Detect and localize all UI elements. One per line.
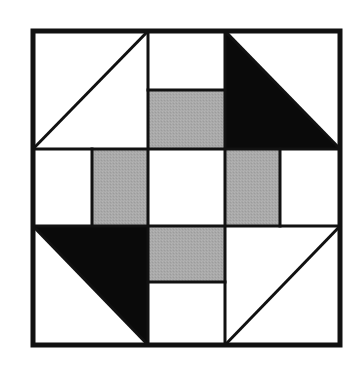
cell-middle-right — [225, 149, 340, 226]
quilt-block-diagram — [0, 0, 357, 366]
cell-center — [148, 149, 225, 226]
patch-light — [148, 149, 225, 226]
patch-gray — [92, 149, 148, 226]
patch-gray — [225, 149, 280, 226]
patch-light — [148, 31, 225, 90]
patch-light — [33, 149, 92, 226]
patch-light — [280, 149, 340, 226]
patch-gray — [148, 90, 225, 149]
cell-bottom-center — [148, 226, 225, 345]
patch-gray — [148, 226, 225, 282]
block-fills — [33, 31, 340, 345]
patch-light — [148, 282, 225, 345]
